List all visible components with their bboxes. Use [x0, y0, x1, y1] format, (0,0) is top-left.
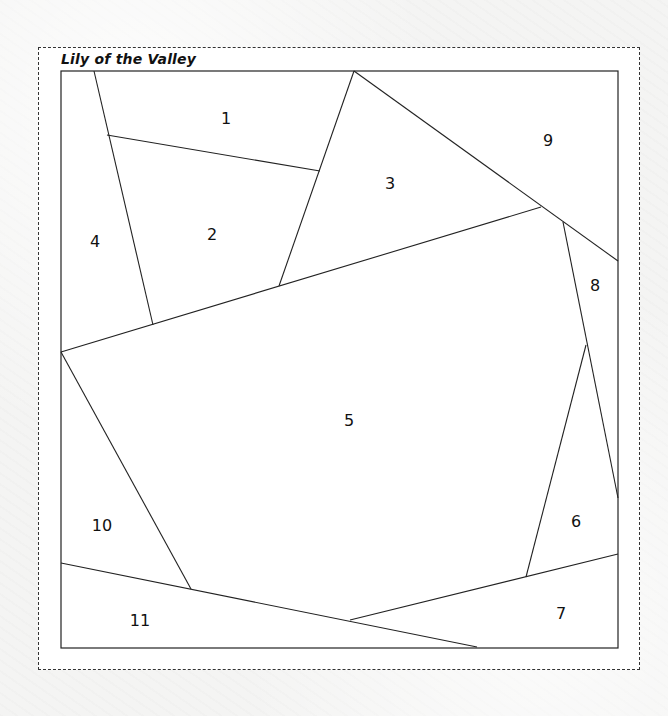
piece-label-10: 10 — [92, 516, 112, 535]
piece-label-6: 6 — [571, 512, 581, 531]
piece-label-7: 7 — [556, 604, 566, 623]
piece-label-1: 1 — [221, 109, 231, 128]
block-outline — [61, 71, 618, 648]
piece-label-5: 5 — [344, 411, 354, 430]
piece-label-9: 9 — [543, 131, 553, 150]
piece-label-11: 11 — [130, 611, 150, 630]
piece-label-8: 8 — [590, 276, 600, 295]
foundation-pattern: 1234567891011 — [0, 0, 668, 716]
piece-label-4: 4 — [90, 232, 100, 251]
piece-label-3: 3 — [385, 174, 395, 193]
piece-label-2: 2 — [207, 225, 217, 244]
